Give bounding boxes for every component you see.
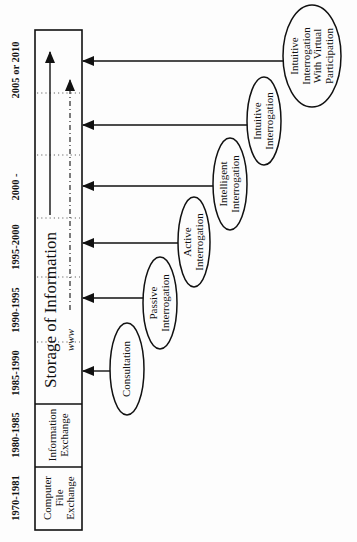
stage-line: Interrogation [160, 274, 172, 331]
stage-intelligent-interrogation: Intelligent Interrogation [218, 155, 241, 212]
stage-line: Participation [324, 27, 336, 84]
year-label-2005-or-2010: 2005 or 2010 [11, 42, 22, 99]
www-label: www [65, 329, 76, 351]
stage-line: Interrogation [194, 213, 206, 270]
year-label-1985-1990: 1985-1990 [11, 350, 22, 396]
stage-line: Passive [148, 274, 160, 331]
cell-computer-file-exchange: Computer File Exchange [42, 476, 77, 520]
year-label-1995-2000: 1995-2000 [11, 224, 22, 270]
stage-line: With Virtual [312, 27, 324, 84]
stage-line: Intuitive [289, 27, 301, 84]
year-label-1980-1985: 1980-1985 [11, 412, 22, 458]
year-label-1990-1995: 1990-1995 [11, 287, 22, 333]
cell-line: Computer [42, 476, 54, 520]
stage-line: Intuitive [252, 92, 264, 149]
cell-information-exchange: Information Exchange [47, 409, 70, 462]
stage-line: Active [182, 213, 194, 270]
stage-line: Interrogation [264, 92, 276, 149]
stage-line: Interrogation [230, 155, 242, 212]
stage-intuitive-interrogation: Intuitive Interrogation [252, 92, 275, 149]
cell-line: Information [47, 409, 59, 462]
stage-active-interrogation: Active Interrogation [182, 213, 205, 270]
stage-line: Consultation [121, 341, 133, 397]
cell-line: Exchange [65, 476, 77, 520]
year-label-2000: 2000 - [11, 173, 22, 200]
stage-consultation: Consultation [121, 341, 133, 397]
stage-line: Intelligent [218, 155, 230, 212]
cell-line: Exchange [59, 409, 71, 462]
year-label-1970-1981: 1970-1981 [11, 475, 22, 521]
storage-of-information-label: Storage of Information [42, 232, 59, 388]
stage-passive-interrogation: Passive Interrogation [148, 274, 171, 331]
stage-intuitive-virtual-participation: Intuitive Interrogation With Virtual Par… [289, 27, 335, 84]
